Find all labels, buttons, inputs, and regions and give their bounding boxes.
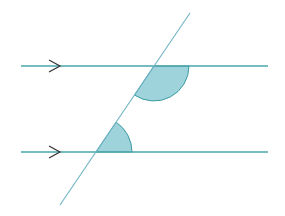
lower-shaded-angle: [96, 122, 132, 152]
parallel-lines-diagram: [0, 0, 285, 216]
transversal-line: [60, 13, 190, 205]
